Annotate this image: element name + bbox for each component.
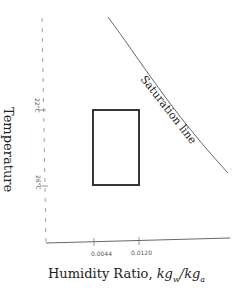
y-tick-label-26: 26°C bbox=[35, 175, 42, 190]
saturation-curve bbox=[108, 17, 228, 173]
y-axis bbox=[42, 18, 46, 243]
x-tick-label-0120: 0.0120 bbox=[131, 249, 152, 256]
x-axis-label-text: Humidity Ratio, bbox=[48, 266, 157, 281]
y-tick-label-22: 22°C bbox=[34, 98, 41, 113]
comfort-zone-box bbox=[93, 110, 139, 185]
x-axis-label: Humidity Ratio, kgw/kga bbox=[48, 266, 218, 284]
x-axis-label-units: kgw/kga bbox=[157, 266, 205, 281]
y-axis-label: Temperature bbox=[2, 107, 16, 177]
x-axis bbox=[46, 238, 230, 243]
psychrometric-diagram bbox=[0, 0, 243, 288]
x-tick-label-0044: 0.0044 bbox=[91, 250, 112, 257]
